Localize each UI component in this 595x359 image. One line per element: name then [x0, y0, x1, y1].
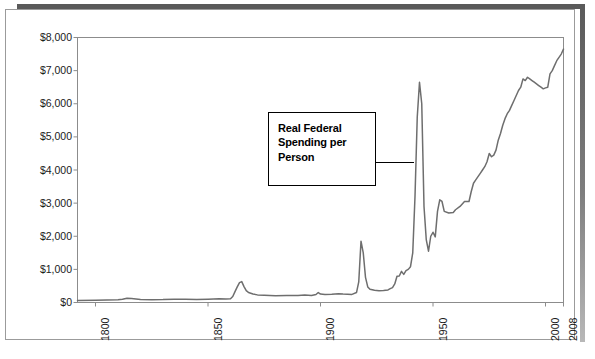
x-tick-label: 1900 [325, 317, 336, 340]
callout-label: Real Federal Spending per Person [278, 121, 375, 164]
x-tick-label: 1950 [438, 317, 449, 340]
callout-leader-line [376, 162, 414, 163]
x-tick-label: 1850 [213, 317, 224, 340]
callout-annotation-box: Real Federal Spending per Person [268, 112, 376, 186]
x-tick-label: 1800 [100, 317, 111, 340]
x-tick-label: 2000 [550, 317, 561, 340]
x-tick-label: 2008 [568, 317, 579, 340]
